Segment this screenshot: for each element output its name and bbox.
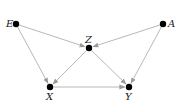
edge-z-to-y [91, 50, 126, 84]
node-e [13, 21, 19, 27]
node-label-z: Z [84, 34, 93, 45]
node-label-a: A [167, 18, 175, 29]
causal-diagram: EAZXY [0, 0, 187, 110]
edge-a-to-y [131, 27, 161, 83]
nodes-group: EAZXY [5, 18, 175, 102]
node-a [160, 21, 166, 27]
edge-z-to-x [53, 50, 87, 84]
node-z [86, 45, 92, 51]
node-x [47, 84, 53, 90]
node-y [126, 84, 132, 90]
node-label-e: E [5, 18, 14, 29]
node-label-y: Y [125, 91, 133, 102]
edge-e-to-x [18, 27, 48, 83]
edge-e-to-z [19, 25, 85, 47]
node-label-x: X [45, 91, 54, 102]
edge-a-to-z [93, 25, 160, 47]
